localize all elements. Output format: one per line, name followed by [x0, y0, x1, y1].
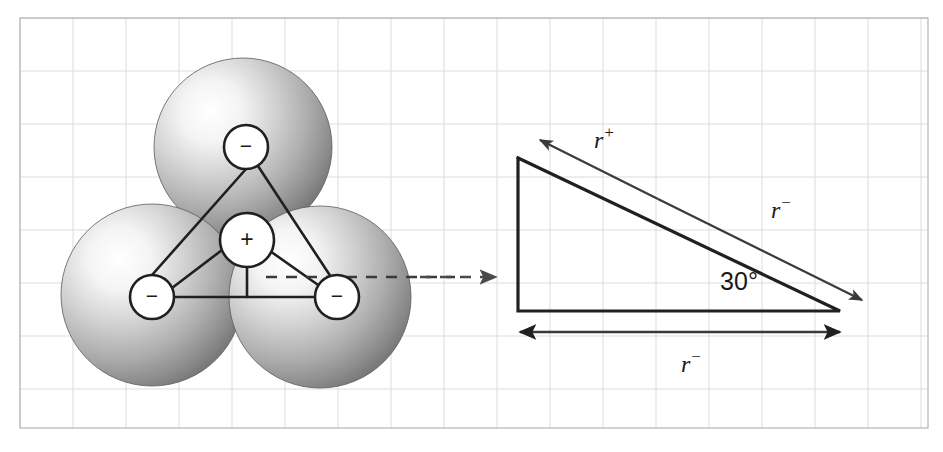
charge-anion-top-glyph: −: [240, 134, 252, 157]
charge-anion-left: −: [130, 275, 174, 319]
charge-anion-top: −: [224, 125, 268, 169]
figure-root: −−−+ 30° r+r−r−: [0, 0, 943, 452]
charge-cation-center-glyph: +: [240, 226, 253, 252]
charge-anion-left-glyph: −: [146, 284, 158, 307]
charge-anion-right: −: [315, 275, 359, 319]
charge-anion-right-glyph: −: [331, 284, 343, 307]
label-r-minus-upper-superscript: −: [780, 193, 791, 212]
charge-cation-center: +: [220, 213, 274, 267]
label-r-minus-lower-superscript: −: [690, 347, 701, 366]
figure-canvas: −−−+ 30° r+r−r−: [0, 0, 943, 452]
label-r-plus-superscript: +: [603, 123, 614, 142]
angle-label-30-degrees: 30°: [720, 267, 758, 295]
